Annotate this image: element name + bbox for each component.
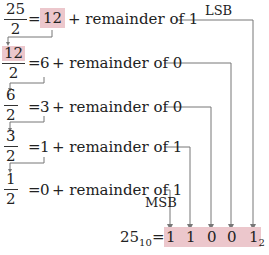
fraction-step-5: 1 2 — [4, 172, 18, 207]
bit-4: 12 — [249, 229, 265, 251]
remainder-step-3: + remainder of 0 — [52, 99, 182, 115]
bit-2: 0 — [207, 229, 217, 245]
denominator: 2 — [4, 22, 27, 37]
denominator: 2 — [4, 149, 18, 164]
bit-0: 1 — [166, 229, 176, 245]
numerator: 3 — [4, 129, 18, 144]
decimal-base: 10 — [139, 237, 152, 248]
equals-sign: = — [28, 11, 41, 27]
fraction-step-4: 3 2 — [4, 129, 18, 164]
bit-3: 0 — [227, 229, 237, 245]
fraction-step-3: 6 2 — [4, 88, 18, 123]
remainder-step-2: + remainder of 0 — [52, 55, 182, 71]
result-decimal: 2510 — [120, 229, 152, 251]
bit-4-value: 1 — [249, 228, 259, 246]
bit-1: 1 — [186, 229, 196, 245]
fraction-step-2: 12 2 — [2, 46, 25, 81]
denominator: 2 — [2, 66, 25, 81]
equals-sign: = — [28, 99, 41, 115]
numerator: 6 — [4, 88, 18, 103]
quotient-step-2: 6 — [40, 55, 50, 71]
quotient-step-5: 0 — [40, 182, 50, 198]
msb-label: MSB — [145, 196, 177, 209]
decimal-value: 25 — [120, 228, 139, 246]
lsb-label: LSB — [205, 4, 232, 17]
quotient-step-4: 1 — [40, 139, 50, 155]
result-equals: = — [152, 229, 165, 245]
denominator: 2 — [4, 192, 18, 207]
remainder-step-1: + remainder of 1 — [68, 11, 198, 27]
equals-sign: = — [28, 182, 41, 198]
binary-base: 2 — [259, 237, 265, 248]
equals-sign: = — [28, 139, 41, 155]
numerator: 1 — [4, 172, 18, 187]
remainder-step-4: + remainder of 1 — [52, 139, 182, 155]
quotient-step-3: 3 — [40, 99, 50, 115]
quotient-step-1: 12 — [40, 8, 65, 28]
fraction-step-1: 25 2 — [4, 2, 27, 37]
denominator: 2 — [4, 108, 18, 123]
connector-lines — [0, 0, 269, 255]
numerator: 12 — [2, 46, 25, 61]
equals-sign: = — [28, 55, 41, 71]
numerator: 25 — [4, 2, 27, 17]
